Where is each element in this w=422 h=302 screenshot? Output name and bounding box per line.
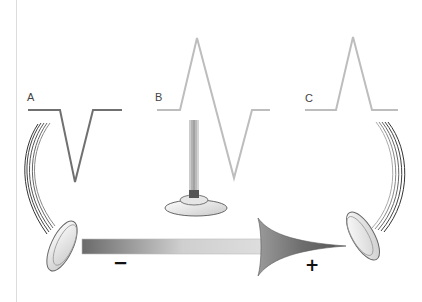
waveform-c: [305, 37, 398, 110]
electrode-a: [25, 123, 84, 275]
waveform-b: [157, 38, 270, 178]
diagram-canvas: [0, 0, 422, 302]
waveform-a: [28, 110, 122, 182]
electrode-b: [165, 120, 227, 216]
positive-sign: +: [305, 255, 319, 275]
ecg-polarity-diagram: A B C − +: [0, 0, 422, 302]
electrode-c: [340, 122, 405, 265]
panel-label-a: A: [27, 91, 34, 103]
negative-sign: −: [113, 252, 128, 273]
panel-label-c: C: [305, 92, 313, 104]
panel-label-b: B: [155, 91, 162, 103]
